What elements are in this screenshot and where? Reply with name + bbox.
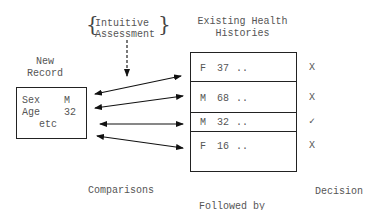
assessment-line1: Intuitive	[95, 18, 149, 29]
comparison-arrow-4	[97, 136, 183, 148]
row-divider	[191, 112, 296, 113]
row-sex: M	[200, 117, 206, 128]
row-more: ..	[236, 117, 248, 128]
decision-label: Decision	[315, 186, 363, 197]
comparisons-label: Comparisons	[88, 185, 154, 196]
new-record-title-line2: Record	[20, 68, 70, 79]
histories-box: F 37 .. M 68 .. M 32 .. F 16 ..	[190, 52, 297, 172]
row-sex: F	[200, 63, 206, 74]
decision-mark: X	[309, 62, 315, 73]
field-label-sex: Sex	[22, 95, 40, 106]
decision-mark: X	[309, 92, 315, 103]
histories-title-line1: Existing Health	[180, 16, 305, 27]
field-value-sex: M	[64, 95, 70, 106]
followed-by-label: Followed by	[199, 201, 265, 210]
row-sex: F	[200, 141, 206, 152]
row-divider	[191, 131, 296, 132]
histories-title-line2: Histories	[180, 28, 305, 39]
decision-mark: X	[309, 140, 315, 151]
new-record-box: Sex M Age 32 etc	[16, 87, 87, 139]
row-divider	[191, 81, 296, 82]
field-more: etc	[39, 119, 57, 130]
row-age: 32	[217, 117, 229, 128]
comparison-arrow-2	[95, 96, 183, 108]
new-record-title-line1: New	[20, 56, 70, 67]
decision-mark: ✓	[309, 116, 315, 127]
row-age: 68	[217, 93, 229, 104]
comparison-arrow-1	[95, 76, 181, 94]
brace-right: }	[158, 12, 171, 36]
row-age: 37	[217, 63, 229, 74]
field-label-age: Age	[22, 107, 40, 118]
field-value-age: 32	[64, 107, 76, 118]
assessment-line2: Assessment	[95, 29, 155, 40]
row-sex: M	[200, 93, 206, 104]
row-more: ..	[236, 93, 248, 104]
row-age: 16	[217, 141, 229, 152]
row-more: ..	[236, 63, 248, 74]
row-more: ..	[236, 141, 248, 152]
